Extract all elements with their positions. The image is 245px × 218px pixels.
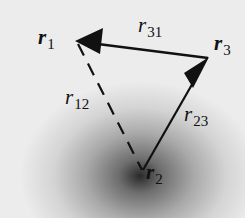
arrowhead-r31-icon bbox=[75, 28, 103, 54]
r3-subscript: 3 bbox=[223, 42, 231, 58]
node-label-r1: r1 bbox=[38, 27, 55, 48]
r2-symbol: r bbox=[146, 160, 154, 184]
vector-lines bbox=[0, 0, 245, 218]
arrowhead-r23-icon bbox=[184, 57, 209, 88]
edge-label-r23: r23 bbox=[184, 104, 208, 125]
diagram-canvas: r1 r3 r2 r31 r12 r23 bbox=[0, 0, 245, 218]
r12-subscript: 12 bbox=[74, 96, 89, 112]
node-label-r2: r2 bbox=[146, 162, 163, 183]
r23-symbol: r bbox=[184, 102, 192, 126]
edge-r31-arrow bbox=[90, 43, 208, 58]
r31-subscript: 31 bbox=[147, 24, 162, 40]
r3-symbol: r bbox=[214, 31, 222, 55]
r1-subscript: 1 bbox=[47, 36, 55, 52]
r1-symbol: r bbox=[38, 25, 46, 49]
edge-label-r12: r12 bbox=[65, 87, 89, 108]
node-label-r3: r3 bbox=[214, 33, 231, 54]
r31-symbol: r bbox=[138, 13, 146, 37]
r23-subscript: 23 bbox=[193, 113, 208, 129]
edge-label-r31: r31 bbox=[138, 15, 162, 36]
r2-subscript: 2 bbox=[155, 171, 163, 187]
r12-symbol: r bbox=[65, 85, 73, 109]
